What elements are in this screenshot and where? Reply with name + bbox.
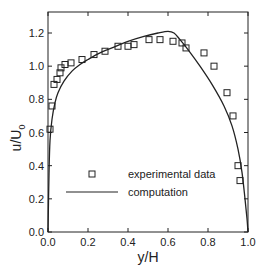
x-tick-label: 1.0 [240, 236, 255, 248]
data-point-square [68, 60, 74, 66]
data-point-square [224, 90, 230, 96]
chart: 0.00.20.40.60.81.00.00.20.40.60.81.01.2 … [0, 0, 270, 270]
data-point-square [237, 178, 243, 184]
data-point-square [125, 43, 131, 49]
plot-frame [48, 12, 248, 232]
svg-text:u/U0: u/U0 [8, 125, 27, 152]
x-tick-label: 0.6 [160, 236, 175, 248]
tick-labels: 0.00.20.40.60.81.00.00.20.40.60.81.01.2 [29, 27, 256, 248]
x-tick-label: 0.8 [200, 236, 215, 248]
legend: experimental data computation [66, 168, 216, 198]
x-tick-label: 0.2 [80, 236, 95, 248]
experimental-markers [47, 37, 243, 184]
y-tick-label: 0.4 [29, 160, 44, 172]
data-point-square [131, 42, 137, 48]
data-point-square [230, 113, 236, 119]
computation-curve [48, 31, 248, 232]
y-axis-label: u/U0 [8, 125, 27, 152]
plot-border [48, 12, 248, 232]
y-tick-label: 1.0 [29, 60, 44, 72]
data-point-square [146, 37, 152, 43]
x-axis-label: y/H [138, 249, 159, 265]
x-tick-label: 0.4 [120, 236, 135, 248]
y-tick-label: 0.0 [29, 226, 44, 238]
legend-label-computation: computation [128, 186, 188, 198]
data-point-square [170, 38, 176, 44]
legend-square-icon [89, 171, 95, 177]
data-point-square [157, 37, 163, 43]
legend-label-experimental: experimental data [128, 168, 216, 180]
y-tick-label: 1.2 [29, 27, 44, 39]
y-axis-label-sub: 0 [17, 125, 27, 130]
y-tick-label: 0.2 [29, 193, 44, 205]
axis-ticks [48, 12, 248, 232]
data-point-square [211, 63, 217, 69]
y-tick-label: 0.6 [29, 127, 44, 139]
data-point-square [201, 50, 207, 56]
y-axis-label-main: u/U [8, 130, 24, 152]
y-tick-label: 0.8 [29, 93, 44, 105]
computation-line [48, 31, 248, 232]
